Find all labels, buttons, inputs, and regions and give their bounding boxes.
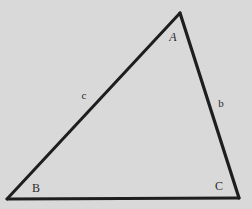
- side-a-line: [7, 198, 239, 199]
- triangle-shape: [0, 0, 252, 209]
- side-b-line: [180, 13, 239, 198]
- vertex-a-label: A: [169, 31, 176, 43]
- vertex-b-label: B: [32, 182, 40, 194]
- triangle-diagram: A B C c b: [0, 0, 252, 209]
- side-b-label: b: [218, 98, 224, 109]
- vertex-c-label: C: [215, 180, 223, 192]
- side-c-label: c: [82, 90, 87, 101]
- side-c-line: [7, 13, 180, 199]
